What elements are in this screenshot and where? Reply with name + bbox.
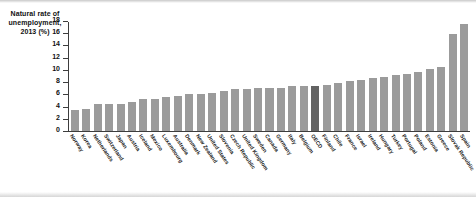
- y-axis-tick-label: 10: [52, 65, 60, 72]
- bar: [288, 86, 296, 131]
- bar-slot: [392, 21, 400, 131]
- bar-slot: [254, 21, 262, 131]
- bar: [174, 96, 182, 131]
- bar-slot: [243, 21, 251, 131]
- bar: [208, 93, 216, 132]
- x-axis-category-labels: NorwayKoreaNetherlandsSwitzerlandJapanAu…: [68, 133, 472, 193]
- bar-slot: [105, 21, 113, 131]
- bar-series: [69, 22, 470, 131]
- bar: [254, 88, 262, 131]
- bar: [162, 97, 170, 131]
- bar: [139, 99, 147, 131]
- bar-slot: [82, 21, 90, 131]
- bar: [426, 69, 434, 131]
- bar: [460, 24, 468, 131]
- bar: [414, 72, 422, 131]
- bar-slot: [414, 21, 422, 131]
- scan-edge-top: [0, 0, 476, 3]
- bar-slot: [117, 21, 125, 131]
- bar: [346, 81, 354, 131]
- bar: [300, 86, 308, 131]
- bar: [311, 86, 319, 131]
- bar-slot: [323, 21, 331, 131]
- bar: [449, 34, 457, 131]
- bar-slot: [334, 21, 342, 131]
- bar: [71, 110, 79, 131]
- bar-slot: [288, 21, 296, 131]
- bar: [220, 91, 228, 131]
- bar: [231, 89, 239, 131]
- bar: [105, 104, 113, 131]
- y-axis-tick: 2: [63, 119, 68, 120]
- y-axis-tick-label: 6: [56, 89, 60, 96]
- bar-slot: [220, 21, 228, 131]
- bar-slot: [174, 21, 182, 131]
- bar-slot: [197, 21, 205, 131]
- bar: [392, 75, 400, 131]
- bar-slot: [311, 21, 319, 131]
- bar: [117, 104, 125, 132]
- x-axis-line: [68, 131, 470, 132]
- bar-slot: [369, 21, 377, 131]
- y-axis-tick-label: 14: [52, 40, 60, 47]
- chart-screenshot: Natural rate of unemployment, 2013 (%) 0…: [0, 0, 476, 197]
- y-axis-tick: 6: [63, 94, 68, 95]
- bar-slot: [128, 21, 136, 131]
- bar: [357, 80, 365, 131]
- y-axis-tick-label: 12: [52, 53, 60, 60]
- bar: [151, 99, 159, 131]
- bar-slot: [437, 21, 445, 131]
- bar: [185, 94, 193, 131]
- bar-slot: [380, 21, 388, 131]
- bar-slot: [231, 21, 239, 131]
- bar-slot: [300, 21, 308, 131]
- y-axis-tick-label: 0: [56, 126, 60, 133]
- bar-slot: [403, 21, 411, 131]
- bar-slot: [277, 21, 285, 131]
- bar: [94, 104, 102, 131]
- y-axis-tick: 4: [63, 107, 68, 108]
- bar: [437, 67, 445, 131]
- x-axis-label: Italy: [287, 133, 298, 146]
- bar-slot: [460, 21, 468, 131]
- y-axis-tick: 16: [63, 33, 68, 34]
- plot-area: 024681012141618: [68, 22, 470, 132]
- bar-slot: [162, 21, 170, 131]
- bar-slot: [151, 21, 159, 131]
- y-axis-tick-label: 4: [56, 102, 60, 109]
- bar: [197, 94, 205, 131]
- y-axis-tick-label: 2: [56, 114, 60, 121]
- y-axis-tick: 12: [63, 58, 68, 59]
- bar-slot: [357, 21, 365, 131]
- bar: [403, 74, 411, 131]
- bar-slot: [449, 21, 457, 131]
- bar: [243, 89, 251, 131]
- scan-edge-bottom: [0, 192, 476, 197]
- y-axis-tick: 0: [63, 131, 68, 132]
- bar-slot: [265, 21, 273, 131]
- bar: [369, 78, 377, 131]
- bar: [265, 88, 273, 131]
- y-axis-tick-label: 16: [52, 28, 60, 35]
- bar: [334, 83, 342, 131]
- bar-slot: [208, 21, 216, 131]
- y-axis-tick-label: 8: [56, 77, 60, 84]
- bar: [82, 109, 90, 131]
- bar: [380, 77, 388, 131]
- y-axis-tick-label: 18: [52, 16, 60, 23]
- bar: [277, 88, 285, 131]
- y-axis-tick: 18: [63, 21, 68, 22]
- y-axis-tick: 10: [63, 70, 68, 71]
- y-axis-tick: 14: [63, 45, 68, 46]
- y-axis-tick: 8: [63, 82, 68, 83]
- bar: [128, 102, 136, 131]
- bar-slot: [346, 21, 354, 131]
- bar-slot: [71, 21, 79, 131]
- bar: [323, 85, 331, 131]
- bar-slot: [426, 21, 434, 131]
- bar-slot: [139, 21, 147, 131]
- bar-slot: [185, 21, 193, 131]
- bar-slot: [94, 21, 102, 131]
